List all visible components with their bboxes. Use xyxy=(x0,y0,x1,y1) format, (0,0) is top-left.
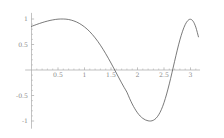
x-tick-label: 1.5 xyxy=(106,71,116,78)
x-tick-label: 0.5 xyxy=(53,71,63,78)
y-tick-label: 1 xyxy=(24,15,28,22)
x-tick-label: 2 xyxy=(136,71,140,78)
y-tick-label: -1 xyxy=(22,117,28,124)
y-tick-label: -0.5 xyxy=(16,92,28,99)
x-tick-label: 1 xyxy=(83,71,87,78)
plot-container: 0.511.522.53 -1-0.50.51 xyxy=(0,0,224,138)
x-axis-major-ticks xyxy=(58,67,191,70)
x-tick-label: 2.5 xyxy=(159,71,169,78)
x-tick-label: 3 xyxy=(189,71,193,78)
chart-canvas: 0.511.522.53 -1-0.50.51 xyxy=(0,0,224,138)
y-tick-label: 0.5 xyxy=(18,41,28,48)
